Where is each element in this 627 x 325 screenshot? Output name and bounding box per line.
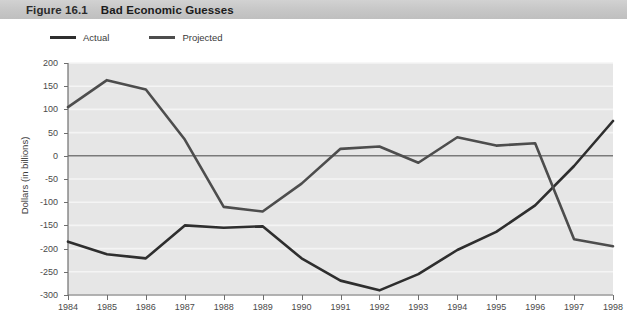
x-tick-mark — [535, 295, 536, 300]
chart-area: Dollars (in billions) 200150100500-50-10… — [0, 50, 627, 325]
y-tick-label: 50 — [24, 128, 58, 138]
plot-canvas — [0, 50, 627, 325]
x-tick-label: 1985 — [87, 302, 127, 312]
x-tick-mark — [107, 295, 108, 300]
x-tick-label: 1984 — [48, 302, 88, 312]
y-tick-mark — [64, 179, 68, 180]
y-tick-label: -50 — [24, 174, 58, 184]
x-tick-label: 1995 — [476, 302, 516, 312]
x-tick-mark — [224, 295, 225, 300]
x-tick-mark — [379, 295, 380, 300]
x-tick-mark — [574, 295, 575, 300]
y-tick-label: 200 — [24, 58, 58, 68]
legend-item-projected: Projected — [149, 32, 222, 43]
x-tick-label: 1986 — [126, 302, 166, 312]
x-tick-label: 1991 — [321, 302, 361, 312]
x-tick-mark — [613, 295, 614, 300]
x-tick-mark — [341, 295, 342, 300]
chart-legend: Actual Projected — [50, 32, 223, 43]
y-tick-label: 150 — [24, 81, 58, 91]
figure-banner: Figure 16.1 Bad Economic Guesses — [0, 0, 627, 19]
y-tick-label: -250 — [24, 267, 58, 277]
x-tick-label: 1996 — [515, 302, 555, 312]
x-tick-label: 1998 — [593, 302, 627, 312]
y-tick-label: -300 — [24, 290, 58, 300]
x-tick-mark — [185, 295, 186, 300]
y-tick-mark — [64, 86, 68, 87]
y-tick-mark — [64, 133, 68, 134]
x-tick-label: 1988 — [204, 302, 244, 312]
y-tick-mark — [64, 109, 68, 110]
y-tick-label: -150 — [24, 220, 58, 230]
y-tick-label: 0 — [24, 151, 58, 161]
y-tick-mark — [64, 63, 68, 64]
legend-swatch-projected — [149, 36, 175, 39]
y-tick-label: 100 — [24, 104, 58, 114]
x-tick-label: 1987 — [165, 302, 205, 312]
y-tick-label: -200 — [24, 244, 58, 254]
figure-number: Figure 16.1 — [26, 4, 88, 16]
y-tick-mark — [64, 156, 68, 157]
legend-item-actual: Actual — [50, 32, 109, 43]
x-tick-label: 1992 — [359, 302, 399, 312]
legend-swatch-actual — [50, 36, 76, 39]
x-tick-label: 1997 — [554, 302, 594, 312]
y-tick-label: -100 — [24, 197, 58, 207]
legend-label-projected: Projected — [182, 32, 222, 43]
y-tick-mark — [64, 202, 68, 203]
x-tick-mark — [302, 295, 303, 300]
x-tick-label: 1989 — [243, 302, 283, 312]
legend-label-actual: Actual — [83, 32, 109, 43]
x-tick-mark — [496, 295, 497, 300]
x-tick-mark — [146, 295, 147, 300]
x-tick-label: 1994 — [437, 302, 477, 312]
x-tick-label: 1993 — [398, 302, 438, 312]
y-tick-mark — [64, 249, 68, 250]
x-tick-label: 1990 — [282, 302, 322, 312]
x-tick-mark — [68, 295, 69, 300]
y-tick-mark — [64, 225, 68, 226]
y-tick-mark — [64, 272, 68, 273]
x-tick-mark — [418, 295, 419, 300]
figure-title: Bad Economic Guesses — [101, 4, 234, 16]
x-tick-mark — [457, 295, 458, 300]
x-tick-mark — [263, 295, 264, 300]
